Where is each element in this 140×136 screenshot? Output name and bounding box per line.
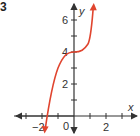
x-tick-label-2: 2 — [103, 121, 109, 133]
cubic-curve — [45, 8, 93, 129]
y-tick-label-2: 2 — [62, 78, 68, 90]
x-axis — [14, 113, 137, 119]
x-axis-label: x — [127, 101, 134, 113]
cubic-graph: −2 0 2 2 4 6 y x — [0, 0, 140, 136]
x-tick-label-0: 0 — [63, 120, 69, 132]
curve-arrow-top-icon — [90, 3, 97, 11]
y-axis — [71, 4, 77, 133]
y-tick-label-6: 6 — [62, 14, 68, 26]
y-axis-label: y — [78, 5, 86, 17]
